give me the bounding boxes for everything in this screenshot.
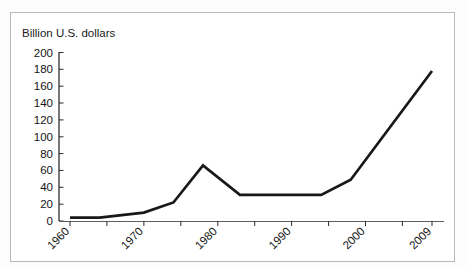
x-axis-tick-label: 2000: [340, 225, 367, 252]
y-axis-tick-label: 60: [40, 164, 53, 176]
x-axis-tick-label: 1980: [193, 225, 220, 252]
y-axis-tick-labels: 020406080100120140160180200: [34, 47, 53, 228]
y-axis-tick-label: 160: [34, 80, 53, 92]
y-axis-tick-label: 180: [34, 63, 53, 75]
data-series-line: [70, 71, 432, 218]
x-axis-tick-label: 1990: [266, 225, 293, 252]
y-axis-tick-label: 20: [40, 198, 53, 210]
x-axis-tick-label: 2009: [407, 225, 434, 252]
chart-figure: Billion U.S. dollars 0204060801001201401…: [0, 0, 466, 270]
y-axis-tick-label: 80: [40, 148, 53, 160]
line-chart: Billion U.S. dollars 0204060801001201401…: [0, 0, 466, 270]
y-axis-tick-label: 0: [47, 215, 53, 227]
x-axis-tick-label: 1960: [45, 225, 72, 252]
y-axis-tick-marks: [59, 53, 64, 222]
y-axis-tick-label: 100: [34, 131, 53, 143]
x-axis-tick-label: 1970: [119, 225, 146, 252]
y-axis-tick-label: 120: [34, 114, 53, 126]
y-axis-tick-label: 200: [34, 47, 53, 59]
y-axis-title: Billion U.S. dollars: [22, 27, 116, 39]
y-axis-tick-label: 140: [34, 97, 53, 109]
y-axis-tick-label: 40: [40, 181, 53, 193]
x-axis-tick-labels: 196019701980199020002009: [45, 225, 434, 252]
